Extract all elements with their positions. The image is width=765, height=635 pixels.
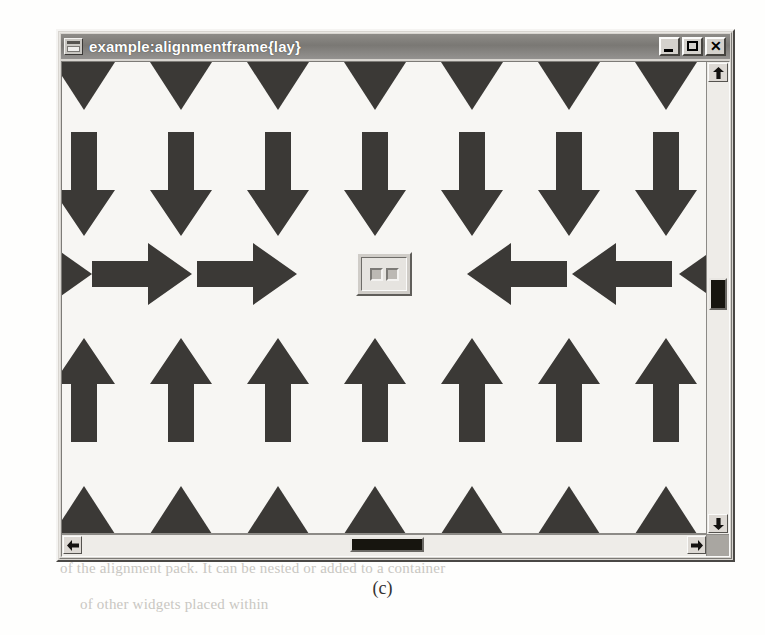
arrow-down-icon	[635, 132, 697, 236]
arrow-left-icon	[572, 243, 672, 305]
alignment-child-square-1[interactable]	[370, 268, 383, 281]
arrow-left-icon	[679, 243, 707, 305]
arrow-up-icon	[538, 338, 600, 442]
arrow-up-clipped	[247, 486, 309, 534]
alignment-canvas[interactable]	[62, 62, 707, 534]
arrow-down-icon	[150, 132, 212, 236]
arrow-down-clipped	[441, 62, 503, 110]
arrow-up-clipped-icon	[441, 486, 503, 534]
arrow-up-clipped-icon	[635, 486, 697, 534]
arrow-up	[62, 338, 115, 442]
arrow-down-clipped	[344, 62, 406, 110]
arrow-up	[150, 338, 212, 442]
scrollbar-corner	[706, 534, 729, 556]
window-document-icon[interactable]	[64, 38, 83, 55]
arrow-left-clipped	[679, 243, 707, 305]
arrow-up-clipped-icon	[344, 486, 406, 534]
arrow-down-clipped-icon	[635, 62, 697, 110]
arrow-down-icon	[538, 132, 600, 236]
arrow-up-icon	[247, 338, 309, 442]
arrow-up-clipped	[441, 486, 503, 534]
arrow-up-icon	[635, 338, 697, 442]
arrow-down-icon	[441, 132, 503, 236]
arrow-down-clipped	[247, 62, 309, 110]
arrow-down-clipped	[538, 62, 600, 110]
arrow-left	[572, 243, 672, 305]
arrow-up-icon	[62, 338, 115, 442]
scroll-left-button[interactable]	[63, 536, 82, 554]
client-area	[61, 61, 730, 557]
arrow-down	[62, 132, 115, 236]
arrow-down	[247, 132, 309, 236]
horizontal-scrollbar[interactable]	[62, 534, 707, 556]
scroll-down-button[interactable]	[708, 514, 728, 533]
window-title: example:alignmentframe{lay}	[89, 38, 659, 55]
scroll-right-button[interactable]	[687, 536, 706, 554]
scroll-up-button[interactable]	[708, 63, 728, 82]
arrow-left	[467, 243, 567, 305]
minimize-button[interactable]	[659, 37, 680, 56]
caption-button-group: ✕	[659, 37, 726, 56]
figure-page: the arrows in the corners are elongated …	[0, 0, 765, 635]
arrow-down-clipped	[150, 62, 212, 110]
alignment-frame-inner	[361, 257, 407, 291]
figure-caption: (c)	[0, 578, 765, 599]
arrow-up-icon	[150, 338, 212, 442]
arrow-up	[635, 338, 697, 442]
arrow-down-clipped-icon	[441, 62, 503, 110]
arrow-up	[247, 338, 309, 442]
arrow-down-clipped-icon	[538, 62, 600, 110]
arrow-down-clipped-icon	[247, 62, 309, 110]
arrow-up-icon	[344, 338, 406, 442]
arrow-up-icon	[441, 338, 503, 442]
arrow-right-icon	[197, 243, 297, 305]
arrow-right-clipped	[62, 243, 92, 305]
arrow-up	[538, 338, 600, 442]
arrow-up-clipped-icon	[150, 486, 212, 534]
close-icon: ✕	[707, 39, 724, 54]
arrow-up-clipped-icon	[62, 486, 115, 534]
arrow-down	[150, 132, 212, 236]
arrow-right	[197, 243, 297, 305]
arrow-down	[441, 132, 503, 236]
arrow-down-clipped-icon	[62, 62, 115, 110]
vertical-scrollbar[interactable]	[706, 62, 729, 534]
arrow-up-clipped-icon	[247, 486, 309, 534]
arrow-up	[441, 338, 503, 442]
arrow-down	[344, 132, 406, 236]
title-bar[interactable]: example:alignmentframe{lay} ✕	[61, 34, 730, 59]
arrow-down-clipped	[62, 62, 115, 110]
arrow-up-clipped	[635, 486, 697, 534]
arrow-up-clipped-icon	[538, 486, 600, 534]
vertical-scroll-thumb[interactable]	[709, 278, 727, 310]
arrow-up	[344, 338, 406, 442]
arrow-down-icon	[247, 132, 309, 236]
arrow-down	[538, 132, 600, 236]
arrow-right-icon	[92, 243, 192, 305]
horizontal-scroll-thumb[interactable]	[350, 537, 424, 552]
application-window: example:alignmentframe{lay} ✕	[56, 29, 735, 562]
arrow-down-icon	[62, 132, 115, 236]
arrow-down-clipped-icon	[150, 62, 212, 110]
arrow-down	[635, 132, 697, 236]
arrow-down-clipped	[635, 62, 697, 110]
arrow-up-clipped	[62, 486, 115, 534]
arrow-up-clipped	[150, 486, 212, 534]
arrow-left-icon	[467, 243, 567, 305]
alignment-frame-widget[interactable]	[356, 252, 412, 296]
arrow-up-clipped	[538, 486, 600, 534]
arrow-right-icon	[62, 243, 92, 305]
close-button[interactable]: ✕	[705, 37, 726, 56]
arrow-down-icon	[344, 132, 406, 236]
arrow-up-clipped	[344, 486, 406, 534]
background-text-line: of the alignment pack. It can be nested …	[60, 560, 445, 577]
maximize-button[interactable]	[682, 37, 703, 56]
arrow-right	[92, 243, 192, 305]
alignment-child-square-2[interactable]	[386, 268, 399, 281]
arrow-down-clipped-icon	[344, 62, 406, 110]
